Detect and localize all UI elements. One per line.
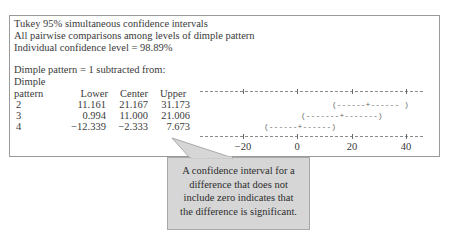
bottom-axis-line <box>200 136 423 137</box>
top-axis-line <box>200 91 423 92</box>
row-center: −2.333 <box>100 121 148 133</box>
axis-label-0: 0 <box>294 141 299 153</box>
callout-line-1: A confidence interval for a <box>168 164 309 178</box>
callout-line-3: include zero indicates that <box>168 191 309 205</box>
axis-label-40: 40 <box>401 141 412 153</box>
ci-row-2: (------+------ ) <box>332 100 409 110</box>
top-tick-0 <box>297 89 298 94</box>
row-upper: 7.673 <box>144 121 190 133</box>
bottom-tick-20 <box>352 134 353 139</box>
callout-line-4: the difference is significant. <box>168 205 309 219</box>
axis-label-20: 20 <box>347 141 358 153</box>
ci-row-3: (-------+-------) <box>301 111 383 121</box>
annotation-callout: A confidence interval for a difference t… <box>167 157 310 230</box>
bottom-tick-40 <box>406 134 407 139</box>
top-tick-neg20 <box>243 89 244 94</box>
bottom-tick-neg20 <box>243 134 244 139</box>
col-header-dimple: Dimple <box>14 76 46 88</box>
top-tick-20 <box>352 89 353 94</box>
callout-line-2: difference that does not <box>168 178 309 192</box>
bottom-tick-0 <box>297 134 298 139</box>
subtracted-from-label: Dimple pattern = 1 subtracted from: <box>14 64 165 76</box>
header-line-2: All pairwise comparisons among levels of… <box>14 30 255 42</box>
row-pattern: 4 <box>16 121 21 133</box>
axis-label-neg20: −20 <box>235 141 251 153</box>
header-line-3: Individual confidence level = 98.89% <box>14 42 172 54</box>
ci-row-4: (------+------) <box>264 122 336 132</box>
top-tick-40 <box>406 89 407 94</box>
header-line-1: Tukey 95% simultaneous confidence interv… <box>14 18 208 30</box>
row-lower: −12.339 <box>58 121 106 133</box>
